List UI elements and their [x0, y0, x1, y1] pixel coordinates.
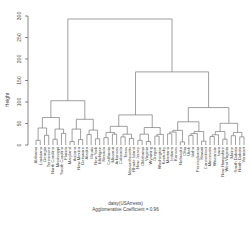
y-tick-label: 150: [16, 76, 22, 85]
x-axis-label: daisy(USArrests): [0, 201, 251, 206]
y-tick-label: 250: [16, 33, 22, 42]
dendrogram-chart: 050100150200250300HeightAlabamaLouisiana…: [0, 0, 251, 232]
y-tick-label: 0: [16, 143, 22, 146]
y-tick-label: 100: [16, 98, 22, 107]
y-tick-label: 200: [16, 55, 22, 64]
y-axis-label: Height: [4, 92, 10, 107]
y-tick-label: 300: [16, 12, 22, 21]
coefficient-text: Agglomerative Coefficient = 0.96: [0, 207, 251, 212]
y-tick-label: 50: [16, 121, 22, 127]
leaf-label: Vermont: [241, 146, 246, 162]
